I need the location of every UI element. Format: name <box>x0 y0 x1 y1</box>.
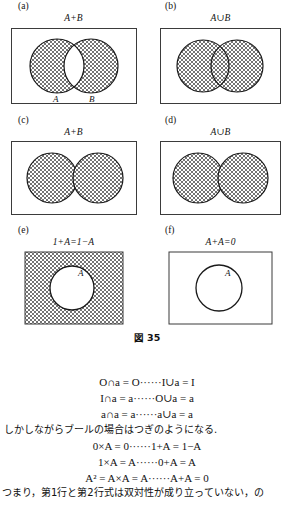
page-root: (a) A+B <box>0 0 294 521</box>
panel-d-title: A∪B <box>147 126 294 138</box>
transition-text: しかしながらブールの場合はつぎのようになる. <box>0 422 294 438</box>
panel-f-label-A: A <box>224 268 231 278</box>
trailing-text: つまり，第1行と第2行式は双対性が成り立っていない，の <box>0 486 294 499</box>
panel-c-diagram <box>9 138 139 218</box>
panel-f-title: A+A=0 <box>147 236 294 248</box>
boole-law-3: A² = A×A = A······A+A = 0 <box>0 470 294 486</box>
figure-row-2: (c) A+B (d) A∪B <box>0 114 294 218</box>
figure-panel-e: (e) 1+A=1−A <box>0 224 147 328</box>
figure-row-1: (a) A+B <box>0 0 294 108</box>
equation-block: O∩a = O······I∪a = I I∩a = a······O∪a = … <box>0 374 294 499</box>
boole-law-1: 0×A = 0······1+A = 1−A <box>0 438 294 454</box>
panel-d-diagram <box>158 138 283 218</box>
panel-e-title: 1+A=1−A <box>0 236 147 248</box>
figure-panel-c: (c) A+B <box>0 114 147 218</box>
panel-e-letter: (e) <box>18 224 147 236</box>
panel-e-diagram: A <box>19 248 129 328</box>
panel-b-letter: (b) <box>165 0 294 12</box>
set-law-3: a∩a = a······a∪a = a <box>0 406 294 422</box>
panel-c-letter: (c) <box>18 114 147 126</box>
figure-panel-d: (d) A∪B <box>147 114 294 218</box>
panel-d-letter: (d) <box>165 114 294 126</box>
figure-panel-a: (a) A+B <box>0 0 147 108</box>
panel-a-label-B: B <box>89 94 95 104</box>
panel-a-diagram: A B <box>9 24 139 108</box>
figure-panel-b: (b) A∪B <box>147 0 294 108</box>
set-law-1: O∩a = O······I∪a = I <box>0 374 294 390</box>
set-law-2: I∩a = a······O∪a = a <box>0 390 294 406</box>
panel-c-title: A+B <box>0 126 147 138</box>
panel-b-diagram <box>158 24 283 108</box>
panel-e-label-A: A <box>77 268 84 278</box>
figure-caption: 図 35 <box>0 330 294 344</box>
panel-a-title: A+B <box>0 12 147 24</box>
figure-panel-f: (f) A+A=0 A <box>147 224 294 328</box>
panel-f-diagram: A <box>161 248 281 328</box>
panel-a-label-A: A <box>52 94 59 104</box>
panel-b-title: A∪B <box>147 12 294 24</box>
figure-row-3: (e) 1+A=1−A <box>0 224 294 328</box>
panel-a-letter: (a) <box>18 0 147 12</box>
boole-law-2: 1×A = A······0+A = A <box>0 454 294 470</box>
panel-f-letter: (f) <box>165 224 294 236</box>
figure-35: (a) A+B <box>0 0 294 344</box>
